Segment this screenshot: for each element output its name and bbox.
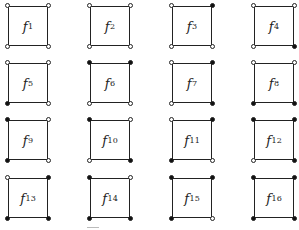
label-letter: f xyxy=(105,76,110,91)
label-letter: f xyxy=(187,76,192,91)
square-label: f15 xyxy=(172,178,212,218)
square-label: f16 xyxy=(254,178,294,218)
label-index: 2 xyxy=(110,22,115,31)
square-f11: f11 xyxy=(172,120,212,160)
label-index: 8 xyxy=(274,79,279,88)
label-letter: f xyxy=(102,133,107,148)
label-letter: f xyxy=(23,19,28,34)
label-index: 4 xyxy=(274,22,279,31)
square-label: f1 xyxy=(8,6,48,46)
square-label: f13 xyxy=(8,178,48,218)
label-letter: f xyxy=(184,191,189,206)
square-label: f12 xyxy=(254,120,294,160)
square-f8: f8 xyxy=(254,63,294,103)
square-label: f9 xyxy=(8,120,48,160)
label-letter: f xyxy=(266,133,271,148)
label-index: 5 xyxy=(28,79,33,88)
square-f2: f2 xyxy=(90,6,130,46)
label-letter: f xyxy=(23,76,28,91)
label-index: 14 xyxy=(108,194,118,203)
square-f7: f7 xyxy=(172,63,212,103)
square-f14: f14 xyxy=(90,178,130,218)
label-letter: f xyxy=(266,191,271,206)
square-f12: f12 xyxy=(254,120,294,160)
label-index: 3 xyxy=(192,22,197,31)
square-label: f10 xyxy=(90,120,130,160)
label-index: 12 xyxy=(272,136,282,145)
square-label: f14 xyxy=(90,178,130,218)
label-letter: f xyxy=(184,133,189,148)
square-f15: f15 xyxy=(172,178,212,218)
square-label: f3 xyxy=(172,6,212,46)
label-letter: f xyxy=(23,133,28,148)
label-letter: f xyxy=(269,76,274,91)
square-f4: f4 xyxy=(254,6,294,46)
square-label: f5 xyxy=(8,63,48,103)
square-label: f4 xyxy=(254,6,294,46)
square-f5: f5 xyxy=(8,63,48,103)
label-letter: f xyxy=(102,191,107,206)
label-index: 10 xyxy=(108,136,118,145)
label-index: 13 xyxy=(26,194,36,203)
square-label: f2 xyxy=(90,6,130,46)
label-index: 16 xyxy=(272,194,282,203)
label-letter: f xyxy=(187,19,192,34)
label-index: 1 xyxy=(28,22,33,31)
square-label: f11 xyxy=(172,120,212,160)
label-letter: f xyxy=(20,191,25,206)
square-f3: f3 xyxy=(172,6,212,46)
label-index: 9 xyxy=(28,136,33,145)
square-f10: f10 xyxy=(90,120,130,160)
label-index: 6 xyxy=(110,79,115,88)
label-index: 11 xyxy=(190,136,200,145)
square-f9: f9 xyxy=(8,120,48,160)
label-letter: f xyxy=(269,19,274,34)
square-label: f6 xyxy=(90,63,130,103)
square-f1: f1 xyxy=(8,6,48,46)
square-f16: f16 xyxy=(254,178,294,218)
square-label: f8 xyxy=(254,63,294,103)
square-f13: f13 xyxy=(8,178,48,218)
square-f6: f6 xyxy=(90,63,130,103)
label-index: 7 xyxy=(192,79,197,88)
square-label: f7 xyxy=(172,63,212,103)
square-grid-diagram: f1f2f3f4f5f6f7f8f9f10f11f12f13f14f15f16 xyxy=(0,0,299,230)
label-letter: f xyxy=(105,19,110,34)
caption-fragment xyxy=(87,227,99,228)
label-index: 15 xyxy=(190,194,200,203)
